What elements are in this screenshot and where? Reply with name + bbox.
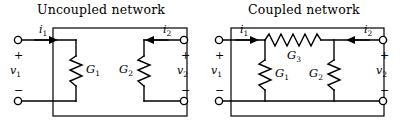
g2-resistor-zigzag bbox=[328, 60, 340, 90]
figure-canvas: Uncoupled network bbox=[0, 0, 405, 139]
element-label-g2: G2 bbox=[119, 64, 133, 78]
g3-resistor-zigzag bbox=[265, 34, 321, 46]
polarity-minus-right: − bbox=[380, 85, 389, 96]
i2-arrow-head bbox=[145, 36, 154, 44]
voltage-label-v1: v1 bbox=[10, 65, 21, 79]
current-label-i1: i1 bbox=[240, 24, 248, 38]
coupled-network-schematic bbox=[203, 0, 405, 139]
terminal-right-top bbox=[379, 36, 386, 43]
polarity-plus-left: + bbox=[215, 50, 224, 61]
terminal-right-bottom bbox=[180, 97, 187, 104]
i2-arrow-head bbox=[346, 36, 355, 44]
polarity-minus-right: − bbox=[181, 85, 190, 96]
g1-resistor-zigzag bbox=[70, 56, 82, 86]
terminal-right-bottom bbox=[379, 97, 386, 104]
terminal-left-top bbox=[14, 36, 21, 43]
i1-arrow-head bbox=[250, 36, 259, 44]
terminal-left-bottom bbox=[215, 97, 222, 104]
voltage-label-v2: v2 bbox=[376, 65, 387, 79]
polarity-minus-left: − bbox=[14, 85, 23, 96]
voltage-label-v2: v2 bbox=[177, 65, 188, 79]
element-label-g3: G3 bbox=[287, 50, 301, 64]
uncoupled-network-schematic bbox=[0, 0, 202, 139]
uncoupled-network-diagram: Uncoupled network bbox=[0, 0, 202, 139]
g1-resistor-zigzag bbox=[259, 60, 271, 90]
polarity-plus-right: + bbox=[380, 50, 389, 61]
g2-resistor-zigzag bbox=[138, 56, 150, 86]
voltage-label-v1: v1 bbox=[211, 65, 222, 79]
element-label-g1: G1 bbox=[86, 64, 100, 78]
current-label-i1: i1 bbox=[39, 24, 47, 38]
polarity-plus-right: + bbox=[181, 50, 190, 61]
element-label-g2: G2 bbox=[309, 68, 323, 82]
current-label-i2: i2 bbox=[163, 24, 171, 38]
terminal-right-top bbox=[180, 36, 187, 43]
polarity-plus-left: + bbox=[14, 50, 23, 61]
current-label-i2: i2 bbox=[364, 24, 372, 38]
terminal-left-top bbox=[215, 36, 222, 43]
polarity-minus-left: − bbox=[215, 85, 224, 96]
terminal-left-bottom bbox=[14, 97, 21, 104]
coupled-network-diagram: Coupled network bbox=[203, 0, 405, 139]
element-label-g1: G1 bbox=[275, 68, 289, 82]
